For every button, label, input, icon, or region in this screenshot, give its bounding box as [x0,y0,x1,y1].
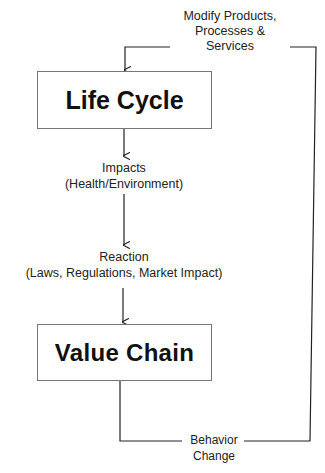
modify-line-3: Services [170,39,290,54]
reaction-line-2: (Laws, Regulations, Market Impact) [4,265,244,281]
life-cycle-node: Life Cycle [37,71,212,129]
feedback-line-bottom [120,380,182,441]
reaction-line-1: Reaction [4,249,244,265]
modify-line-2: Processes & [170,24,290,39]
impacts-label: Impacts (Health/Environment) [44,160,204,192]
modify-label: Modify Products, Processes & Services [170,9,290,54]
modify-line-1: Modify Products, [170,9,290,24]
life-cycle-label: Life Cycle [65,86,183,115]
behavior-label: Behavior Change [183,432,245,464]
reaction-label: Reaction (Laws, Regulations, Market Impa… [4,249,244,281]
feedback-line-right [244,47,316,441]
value-chain-node: Value Chain [37,324,212,381]
impacts-line-2: (Health/Environment) [44,176,204,192]
behavior-line-1: Behavior [183,432,245,448]
behavior-line-2: Change [183,448,245,464]
impacts-line-1: Impacts [44,160,204,176]
value-chain-label: Value Chain [55,339,194,367]
